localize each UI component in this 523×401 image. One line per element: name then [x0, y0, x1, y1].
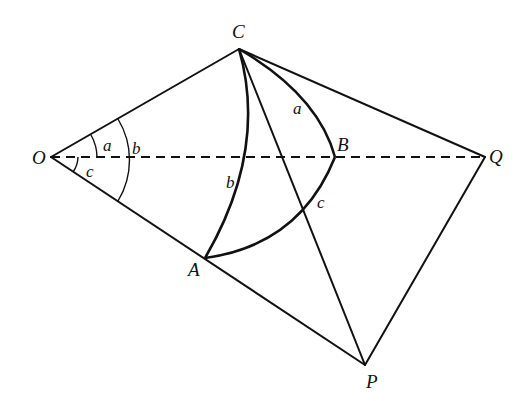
label-angle-b: b [132, 139, 141, 158]
segment-OC [51, 49, 239, 157]
arc-CB [239, 49, 335, 157]
label-arc-b: b [226, 173, 235, 192]
angle-arc-c [73, 157, 78, 172]
diagram-canvas: O C A B Q P a b c a b c [0, 0, 523, 401]
label-point-O: O [32, 147, 46, 168]
segment-QP [365, 157, 485, 365]
spherical-triangle-diagram: O C A B Q P a b c a b c [0, 0, 523, 401]
label-arc-c: c [317, 193, 325, 212]
label-arc-a: a [293, 99, 302, 118]
angle-arc-b [118, 119, 129, 201]
label-angle-c: c [86, 162, 94, 181]
angle-arc-a [91, 135, 97, 157]
label-point-P: P [365, 371, 378, 392]
arc-CA [205, 49, 248, 258]
label-point-Q: Q [489, 146, 503, 167]
label-angle-a: a [103, 136, 112, 155]
label-point-B: B [337, 134, 349, 155]
label-point-A: A [186, 259, 200, 280]
label-point-C: C [232, 21, 245, 42]
